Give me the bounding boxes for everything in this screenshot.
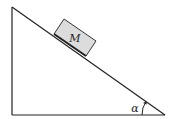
incline-triangle [12, 7, 165, 115]
inclined-plane-diagram: M α [0, 0, 175, 119]
angle-marker: α [131, 102, 147, 115]
angle-label: α [131, 102, 139, 115]
block-label: M [68, 32, 81, 45]
block: M [54, 19, 96, 56]
